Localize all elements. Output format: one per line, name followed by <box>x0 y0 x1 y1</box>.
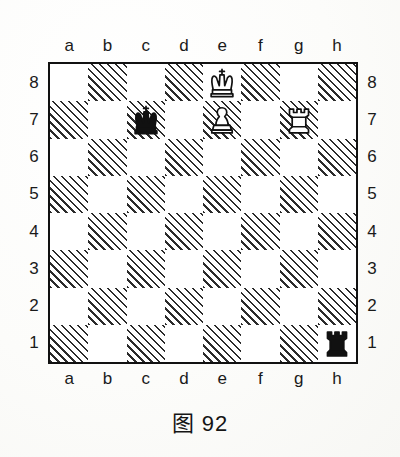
square-c3[interactable] <box>127 250 165 287</box>
file-label-bottom-a: a <box>50 369 89 389</box>
square-g7[interactable] <box>280 101 318 138</box>
square-g5[interactable] <box>280 176 318 213</box>
white-rook[interactable] <box>282 103 316 137</box>
square-a7[interactable] <box>50 101 88 138</box>
white-king[interactable] <box>205 66 239 100</box>
square-g4[interactable] <box>280 213 318 250</box>
square-f3[interactable] <box>241 250 279 287</box>
rank-label-left-6: 6 <box>24 138 44 176</box>
square-h3[interactable] <box>318 250 356 287</box>
file-label-bottom-h: h <box>317 369 356 389</box>
file-label-top-g: g <box>279 36 318 56</box>
rank-label-left-7: 7 <box>24 101 44 139</box>
square-b1[interactable] <box>88 325 126 362</box>
square-e8[interactable] <box>203 64 241 101</box>
square-g2[interactable] <box>280 288 318 325</box>
square-h2[interactable] <box>318 288 356 325</box>
rank-label-right-8: 8 <box>362 64 382 102</box>
square-f5[interactable] <box>241 176 279 213</box>
square-g1[interactable] <box>280 325 318 362</box>
square-f2[interactable] <box>241 288 279 325</box>
square-h4[interactable] <box>318 213 356 250</box>
file-label-top-b: b <box>88 36 127 56</box>
square-e7[interactable] <box>203 101 241 138</box>
square-g3[interactable] <box>280 250 318 287</box>
square-f4[interactable] <box>241 213 279 250</box>
square-h1[interactable] <box>318 325 356 362</box>
rank-label-left-3: 3 <box>24 250 44 288</box>
square-e6[interactable] <box>203 139 241 176</box>
square-d3[interactable] <box>165 250 203 287</box>
square-d5[interactable] <box>165 176 203 213</box>
square-b8[interactable] <box>88 64 126 101</box>
square-d4[interactable] <box>165 213 203 250</box>
square-d8[interactable] <box>165 64 203 101</box>
rank-label-left-2: 2 <box>24 287 44 325</box>
square-a8[interactable] <box>50 64 88 101</box>
rank-label-left-1: 1 <box>24 324 44 362</box>
rank-label-left-5: 5 <box>24 175 44 213</box>
rank-label-right-5: 5 <box>362 175 382 213</box>
black-rook[interactable] <box>320 326 354 360</box>
square-a3[interactable] <box>50 250 88 287</box>
square-a1[interactable] <box>50 325 88 362</box>
square-f6[interactable] <box>241 139 279 176</box>
rank-label-left-4: 4 <box>24 213 44 251</box>
file-label-bottom-g: g <box>279 369 318 389</box>
square-a2[interactable] <box>50 288 88 325</box>
square-c2[interactable] <box>127 288 165 325</box>
square-b3[interactable] <box>88 250 126 287</box>
file-label-top-e: e <box>203 36 242 56</box>
file-label-top-f: f <box>241 36 280 56</box>
square-f8[interactable] <box>241 64 279 101</box>
square-b7[interactable] <box>88 101 126 138</box>
rank-label-left-8: 8 <box>24 64 44 102</box>
rank-label-right-3: 3 <box>362 250 382 288</box>
square-e2[interactable] <box>203 288 241 325</box>
square-d6[interactable] <box>165 139 203 176</box>
black-king[interactable] <box>129 103 163 137</box>
square-g6[interactable] <box>280 139 318 176</box>
square-e1[interactable] <box>203 325 241 362</box>
square-f1[interactable] <box>241 325 279 362</box>
square-a4[interactable] <box>50 213 88 250</box>
file-label-top-d: d <box>164 36 203 56</box>
chessboard[interactable] <box>48 62 358 364</box>
rank-label-right-4: 4 <box>362 213 382 251</box>
square-g8[interactable] <box>280 64 318 101</box>
square-b6[interactable] <box>88 139 126 176</box>
square-e4[interactable] <box>203 213 241 250</box>
square-c6[interactable] <box>127 139 165 176</box>
square-d1[interactable] <box>165 325 203 362</box>
square-h6[interactable] <box>318 139 356 176</box>
rank-label-right-2: 2 <box>362 287 382 325</box>
square-d7[interactable] <box>165 101 203 138</box>
square-c1[interactable] <box>127 325 165 362</box>
file-label-top-h: h <box>317 36 356 56</box>
square-a6[interactable] <box>50 139 88 176</box>
square-c8[interactable] <box>127 64 165 101</box>
chess-diagram: abcdefgh abcdefgh 87654321 87654321 图 92 <box>0 0 400 457</box>
file-label-bottom-f: f <box>241 369 280 389</box>
square-d2[interactable] <box>165 288 203 325</box>
square-h8[interactable] <box>318 64 356 101</box>
square-e5[interactable] <box>203 176 241 213</box>
square-f7[interactable] <box>241 101 279 138</box>
square-b5[interactable] <box>88 176 126 213</box>
square-a5[interactable] <box>50 176 88 213</box>
rank-label-right-6: 6 <box>362 138 382 176</box>
square-h5[interactable] <box>318 176 356 213</box>
square-c4[interactable] <box>127 213 165 250</box>
square-b4[interactable] <box>88 213 126 250</box>
rank-label-right-7: 7 <box>362 101 382 139</box>
file-label-bottom-b: b <box>88 369 127 389</box>
square-c5[interactable] <box>127 176 165 213</box>
square-b2[interactable] <box>88 288 126 325</box>
square-c7[interactable] <box>127 101 165 138</box>
white-pawn[interactable] <box>205 103 239 137</box>
square-e3[interactable] <box>203 250 241 287</box>
square-h7[interactable] <box>318 101 356 138</box>
board-grid <box>50 64 356 362</box>
rank-label-right-1: 1 <box>362 324 382 362</box>
figure-caption: 图 92 <box>0 405 400 437</box>
